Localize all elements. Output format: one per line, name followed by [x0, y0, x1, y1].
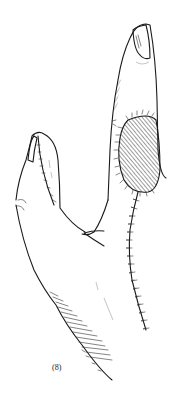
thumbnail-icon: [28, 136, 37, 162]
figure-label: (8): [52, 363, 61, 372]
suture-line: [126, 192, 149, 330]
palm-shading: [50, 292, 112, 371]
medical-illustration: (8): [0, 0, 187, 401]
thumb: [16, 132, 85, 232]
hand-drawing: [0, 0, 187, 401]
palm: [16, 200, 113, 380]
fingernail-icon: [133, 25, 150, 59]
graft-area: [114, 110, 160, 196]
